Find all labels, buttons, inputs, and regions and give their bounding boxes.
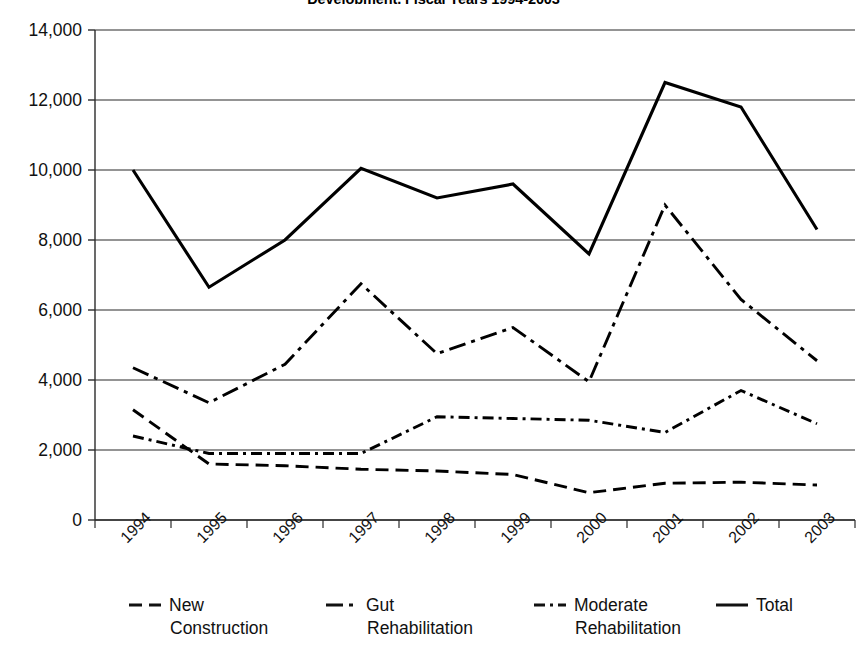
series-line-3 [133, 83, 817, 288]
axis-lines [95, 30, 855, 520]
y-axis-tick-label: 4,000 [0, 370, 82, 391]
plot-area [0, 0, 867, 646]
y-axis-tick-label: 6,000 [0, 300, 82, 321]
legend-swatch-dashed [128, 599, 162, 611]
legend-item[interactable]: GutRehabilitation [325, 594, 473, 640]
y-axis-tick-label: 10,000 [0, 160, 82, 181]
series-lines [133, 83, 817, 493]
legend-label-second-line: Rehabilitation [325, 616, 473, 640]
legend-swatch-solid [715, 599, 749, 611]
series-line-1 [133, 205, 817, 403]
y-axis-tick-label: 14,000 [0, 20, 82, 41]
legend-label: Gut [366, 594, 394, 616]
legend-label: Moderate [574, 594, 648, 616]
gridlines [95, 30, 855, 520]
y-axis-tick-label: 2,000 [0, 440, 82, 461]
legend-label-second-line: Construction [128, 616, 268, 640]
legend-swatch-dash-dot-long [325, 599, 359, 611]
legend-item[interactable]: ModerateRehabilitation [533, 594, 681, 640]
y-axis-tick-label: 8,000 [0, 230, 82, 251]
y-axis-tick-label: 12,000 [0, 90, 82, 111]
legend-label: Total [756, 594, 793, 616]
series-line-0 [133, 410, 817, 493]
y-axis-tick-label: 0 [0, 510, 82, 531]
legend-item[interactable]: NewConstruction [128, 594, 268, 640]
legend-label-second-line: Rehabilitation [533, 616, 681, 640]
y-tick-marks [88, 30, 95, 520]
chart-legend: NewConstructionGutRehabilitationModerate… [0, 594, 867, 646]
chart-container: Development, Fiscal Years 1994-2003 02,0… [0, 0, 867, 646]
legend-swatch-dash-dot-short [533, 599, 567, 611]
legend-label: New [169, 594, 204, 616]
series-line-2 [133, 391, 817, 454]
legend-item[interactable]: Total [715, 594, 793, 616]
